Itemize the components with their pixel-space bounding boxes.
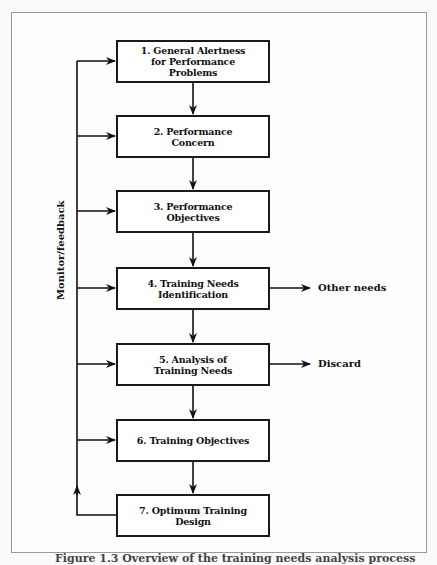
step-1-line-3: Problems — [141, 67, 245, 78]
step-7-optimum-training-design: 7. Optimum TrainingDesign — [116, 494, 270, 537]
step-2-performance-concern: 2. PerformanceConcern — [116, 115, 270, 158]
step-4-line-2: Identification — [147, 289, 238, 300]
discard-label: Discard — [318, 358, 361, 369]
step-3-performance-objectives: 3. PerformanceObjectives — [116, 190, 270, 233]
figure-caption: Figure 1.3 Overview of the training need… — [55, 552, 415, 565]
step-4-line-1: 4. Training Needs — [147, 278, 238, 289]
step-4-training-needs-identification: 4. Training NeedsIdentification — [116, 267, 270, 310]
step-3-line-2: Objectives — [154, 212, 233, 223]
step-1-line-1: 1. General Alertness — [141, 45, 245, 56]
step-5-line-2: Training Needs — [154, 365, 232, 376]
step-3-line-1: 3. Performance — [154, 201, 233, 212]
step-7-line-2: Design — [139, 516, 247, 527]
other-needs-label: Other needs — [318, 282, 386, 293]
step-2-line-2: Concern — [154, 137, 233, 148]
step-5-line-1: 5. Analysis of — [154, 354, 232, 365]
step-7-line-1: 7. Optimum Training — [139, 505, 247, 516]
step-1-general-alertness: 1. General Alertnessfor PerformanceProbl… — [116, 40, 270, 83]
step-6-line-1: 6. Training Objectives — [137, 435, 249, 446]
step-2-line-1: 2. Performance — [154, 126, 233, 137]
step-1-line-2: for Performance — [141, 56, 245, 67]
step-5-analysis-of-training-needs: 5. Analysis ofTraining Needs — [116, 343, 270, 386]
monitor-feedback-label: Monitor/feedback — [55, 200, 66, 300]
step-6-training-objectives: 6. Training Objectives — [116, 419, 270, 462]
